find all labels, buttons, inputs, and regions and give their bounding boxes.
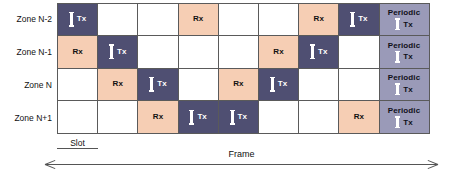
slot-cell-rx: Rx	[178, 3, 219, 36]
frame-row: Rx Tx Rx Tx Periodic Tx	[57, 36, 438, 69]
frame-dimension: Frame	[45, 158, 438, 172]
periodic-label: Periodic	[388, 8, 420, 17]
slot-cell-tx: Tx	[298, 35, 339, 69]
slot-cell-rx: Rx	[298, 3, 339, 36]
slot-cell-empty	[338, 35, 379, 69]
slot-cell-rx: Rx	[137, 100, 178, 134]
slot-cell-empty	[258, 3, 299, 36]
slot-cell-empty	[178, 68, 219, 102]
tx-burst-icon	[189, 110, 194, 125]
slot-cell-tx: Tx	[258, 68, 299, 102]
periodic-tx-label: Tx	[403, 118, 413, 127]
slot-cell-periodic-tx: Periodic Tx	[379, 35, 430, 69]
tx-burst-icon	[395, 83, 400, 95]
zone-frame-diagram: Zone N-2 Zone N-1 Zone N Zone N+1 Tx Rx …	[0, 0, 455, 177]
slot-cell-empty	[298, 68, 339, 102]
slot-cell-rx: Rx	[218, 68, 259, 102]
frame-arrow-right-icon	[426, 158, 438, 171]
periodic-label: Periodic	[388, 41, 420, 50]
periodic-tx-label: Tx	[403, 20, 413, 29]
tx-burst-icon	[350, 12, 355, 27]
slot-cell-empty	[57, 100, 98, 134]
slot-cell-empty	[218, 35, 259, 69]
frame-row: Rx Tx Tx Rx Periodic Tx	[57, 101, 438, 134]
slot-cell-empty	[97, 100, 138, 134]
frame-grid: Tx Rx Rx Tx Periodic Tx Rx Tx Rx Tx	[57, 3, 438, 134]
slot-cell-periodic-tx: Periodic Tx	[379, 100, 430, 134]
slot-cell-empty	[137, 35, 178, 69]
slot-cell-tx: Tx	[97, 35, 138, 69]
slot-cell-tx: Tx	[178, 100, 219, 134]
slot-cell-rx: Rx	[57, 35, 98, 69]
slot-cell-rx: Rx	[97, 68, 138, 102]
tx-burst-icon	[230, 110, 235, 125]
slot-cell-tx: Tx	[137, 68, 178, 102]
periodic-tx-label: Tx	[403, 85, 413, 94]
tx-burst-icon	[395, 116, 400, 128]
frame-dimension-line	[45, 164, 438, 165]
slot-cell-empty	[97, 3, 138, 36]
slot-cell-periodic-tx: Periodic Tx	[379, 68, 430, 102]
tx-burst-icon	[109, 44, 114, 59]
tx-burst-icon	[149, 77, 154, 92]
slot-cell-empty	[57, 68, 98, 102]
zone-label-row-2: Zone N	[0, 69, 56, 102]
periodic-label: Periodic	[388, 106, 420, 115]
slot-cell-rx: Rx	[258, 35, 299, 69]
frame-dimension-label: Frame	[45, 149, 438, 159]
periodic-tx-label: Tx	[403, 52, 413, 61]
slot-cell-empty	[218, 3, 259, 36]
tx-burst-icon	[69, 12, 74, 27]
slot-cell-empty	[258, 100, 299, 134]
frame-row: Rx Tx Rx Tx Periodic Tx	[57, 69, 438, 102]
zone-label-row-0: Zone N-2	[0, 3, 56, 36]
slot-cell-empty	[137, 3, 178, 36]
frame-row: Tx Rx Rx Tx Periodic Tx	[57, 3, 438, 36]
tx-burst-icon	[270, 77, 275, 92]
slot-cell-tx: Tx	[338, 3, 379, 36]
tx-burst-icon	[395, 18, 400, 30]
slot-cell-empty	[338, 68, 379, 102]
tx-burst-icon	[395, 51, 400, 63]
zone-label-row-1: Zone N-1	[0, 36, 56, 69]
zone-label-row-3: Zone N+1	[0, 101, 56, 134]
slot-cell-tx: Tx	[57, 3, 98, 36]
slot-cell-periodic-tx: Periodic Tx	[379, 3, 430, 36]
slot-cell-tx: Tx	[218, 100, 259, 134]
slot-cell-empty	[298, 100, 339, 134]
periodic-label: Periodic	[388, 73, 420, 82]
slot-cell-rx: Rx	[338, 100, 379, 134]
slot-cell-empty	[178, 35, 219, 69]
slot-dimension-label: Slot	[57, 138, 98, 148]
tx-burst-icon	[310, 44, 315, 59]
frame-arrow-left-icon	[45, 158, 57, 171]
